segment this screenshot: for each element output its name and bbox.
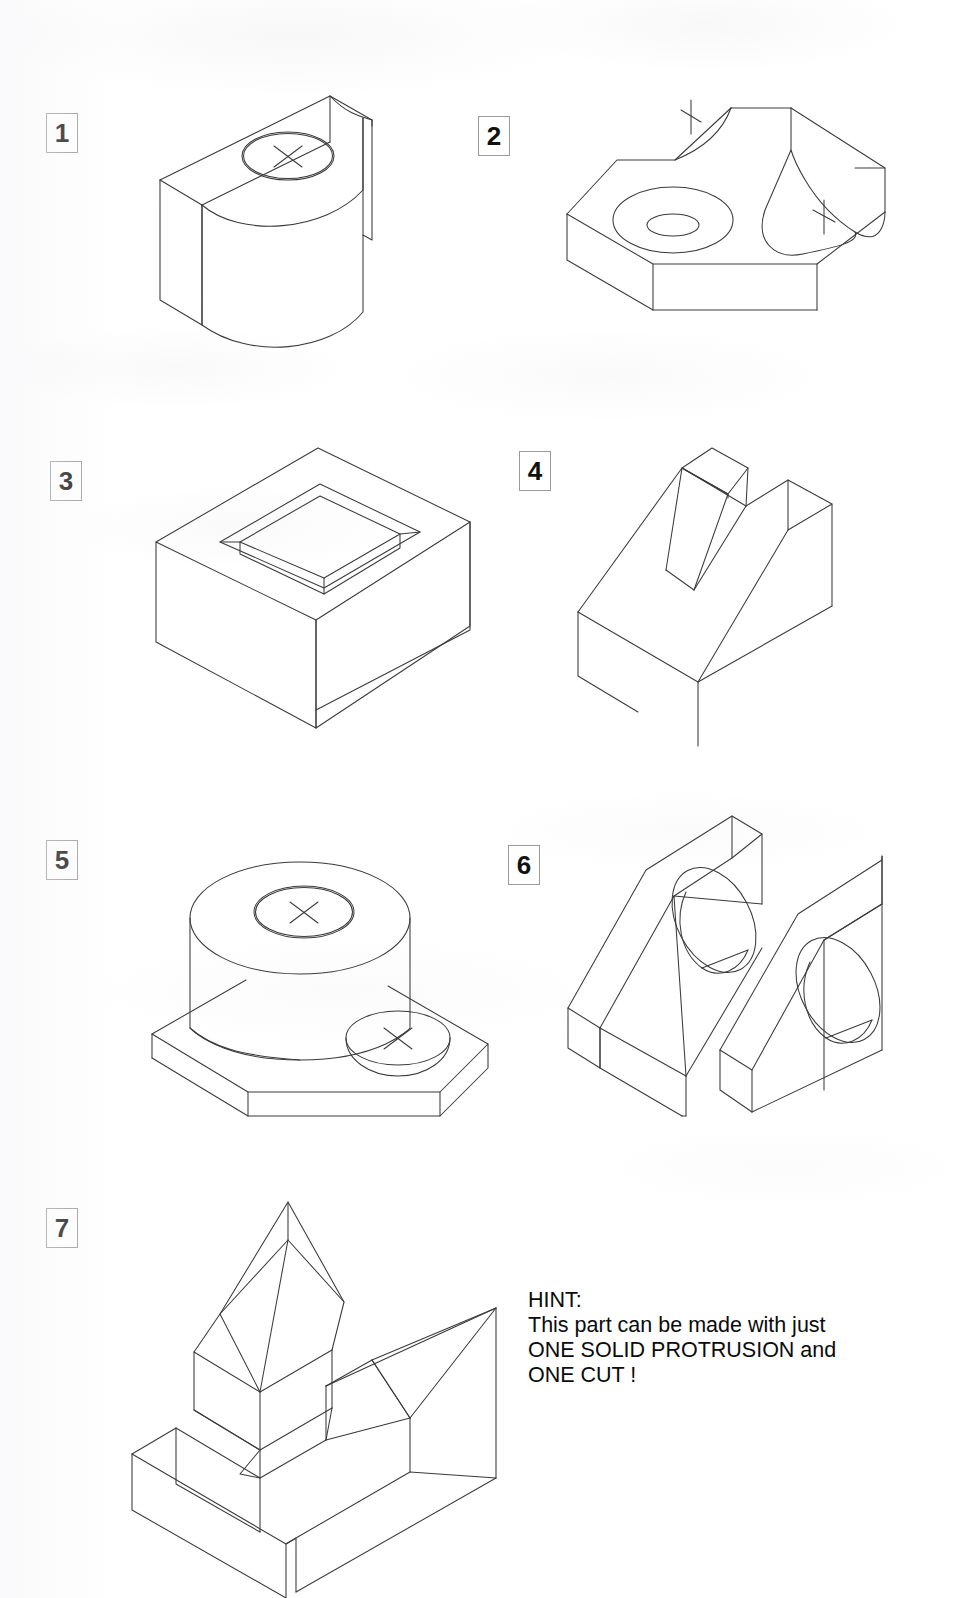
figure-4-drawing [570,424,860,704]
figure-6-drawing [562,800,892,1120]
figure-1-drawing [140,90,400,360]
figure-2-drawing [555,92,935,342]
figure-label-7: 7 [46,1208,78,1248]
figure-label-6: 6 [508,845,540,885]
figure-label-3: 3 [50,461,82,501]
figure-label-2: 2 [478,116,510,156]
figure-label-1: 1 [46,113,78,153]
figure-3-drawing [148,430,478,690]
figure-5-drawing [140,832,500,1132]
figure-label-5: 5 [46,840,78,880]
hint-text-block: HINT: This part can be made with just ON… [528,1288,836,1389]
figure-7-drawing [110,1192,510,1598]
figure-label-4: 4 [519,451,551,491]
